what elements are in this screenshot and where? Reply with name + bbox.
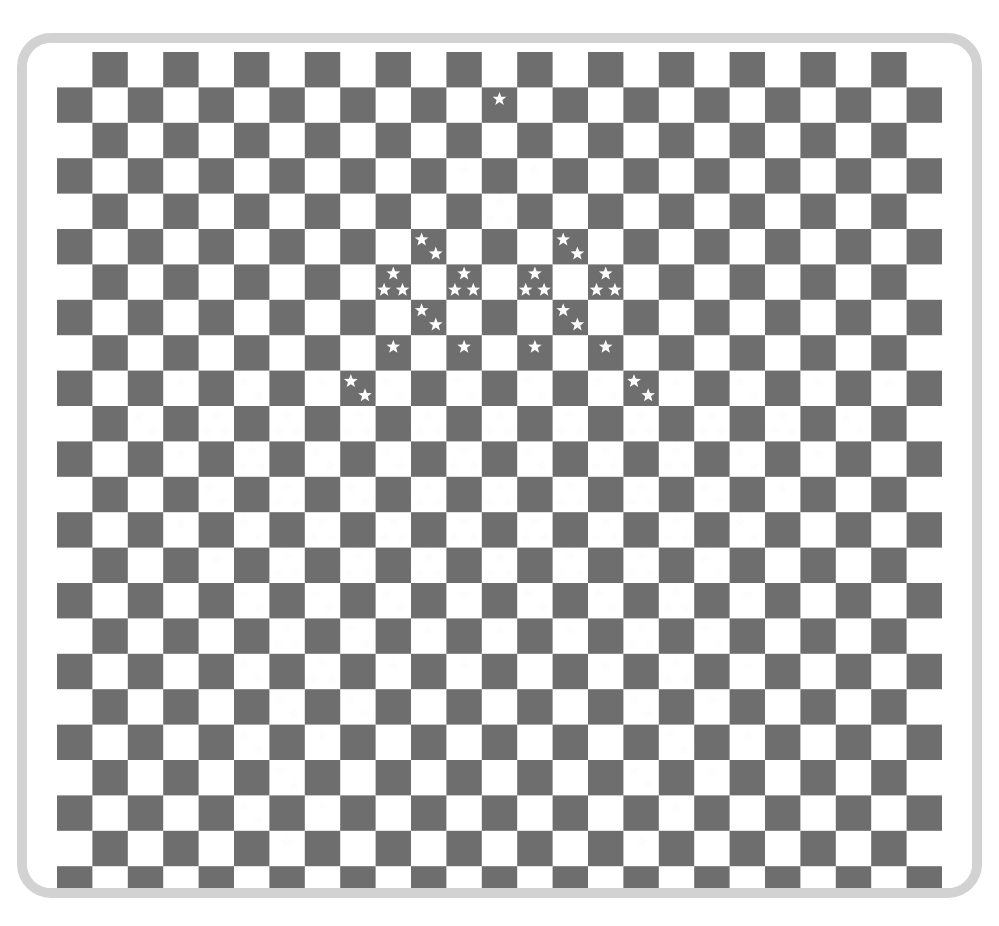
checker-square-dark xyxy=(340,654,375,689)
checker-square-dark xyxy=(199,158,234,193)
checker-square-dark xyxy=(730,760,765,795)
checker-square-dark xyxy=(836,300,871,335)
checker-square-dark xyxy=(907,229,942,264)
checker-square-dark xyxy=(269,87,304,122)
checker-square-dark xyxy=(305,406,340,441)
checker-square-dark xyxy=(553,583,588,618)
checker-square-dark xyxy=(588,264,623,299)
checker-square-dark xyxy=(163,477,198,512)
checker-square-dark xyxy=(234,760,269,795)
checker-square-dark xyxy=(269,158,304,193)
checker-square-dark xyxy=(800,406,835,441)
checker-square-dark xyxy=(340,441,375,476)
checker-square-dark xyxy=(163,760,198,795)
checker-square-dark xyxy=(871,618,906,653)
checker-square-dark xyxy=(199,441,234,476)
checker-square-dark xyxy=(659,831,694,866)
checker-square-dark xyxy=(376,477,411,512)
checker-square-dark xyxy=(340,87,375,122)
checker-square-dark xyxy=(92,406,127,441)
checker-square-dark xyxy=(517,406,552,441)
checker-square-dark xyxy=(269,795,304,830)
checker-square-dark xyxy=(234,689,269,724)
checker-square-dark xyxy=(730,831,765,866)
checker-square-dark xyxy=(57,866,92,888)
checker-square-dark xyxy=(269,512,304,547)
checker-square-dark xyxy=(92,52,127,87)
checker-square-dark xyxy=(269,300,304,335)
checker-square-dark xyxy=(553,371,588,406)
checker-square-dark xyxy=(340,725,375,760)
checker-square-dark xyxy=(553,654,588,689)
checker-square-dark xyxy=(340,371,375,406)
checker-square-dark xyxy=(305,194,340,229)
checker-square-dark xyxy=(269,441,304,476)
checker-square-dark xyxy=(199,371,234,406)
checker-square-dark xyxy=(871,194,906,229)
checker-square-dark xyxy=(730,52,765,87)
checker-square-dark xyxy=(659,123,694,158)
checker-square-dark xyxy=(836,441,871,476)
checker-square-dark xyxy=(836,87,871,122)
checker-square-dark xyxy=(199,512,234,547)
checker-square-dark xyxy=(588,194,623,229)
checker-square-dark xyxy=(694,866,729,888)
checker-square-dark xyxy=(305,123,340,158)
checker-square-dark xyxy=(57,158,92,193)
checker-square-dark xyxy=(482,512,517,547)
checker-square-dark xyxy=(694,87,729,122)
checker-square-dark xyxy=(517,335,552,370)
checker-square-dark xyxy=(128,512,163,547)
checker-square-dark xyxy=(376,52,411,87)
checker-square-dark xyxy=(92,618,127,653)
checker-square-dark xyxy=(730,406,765,441)
checker-square-dark xyxy=(623,654,658,689)
checker-square-dark xyxy=(446,264,481,299)
checker-square-dark xyxy=(765,87,800,122)
checker-square-dark xyxy=(800,548,835,583)
checker-square-dark xyxy=(57,87,92,122)
checker-square-dark xyxy=(659,406,694,441)
checker-square-dark xyxy=(128,441,163,476)
checker-square-dark xyxy=(482,300,517,335)
checker-square-dark xyxy=(128,795,163,830)
checker-square-dark xyxy=(588,689,623,724)
checker-square-dark xyxy=(517,548,552,583)
checker-square-dark xyxy=(623,866,658,888)
checker-square-dark xyxy=(836,371,871,406)
checker-square-dark xyxy=(907,158,942,193)
checker-square-dark xyxy=(234,52,269,87)
checker-square-dark xyxy=(57,795,92,830)
checker-square-dark xyxy=(163,406,198,441)
checker-square-dark xyxy=(623,725,658,760)
checker-square-dark xyxy=(411,300,446,335)
checker-square-dark xyxy=(128,583,163,618)
checker-square-dark xyxy=(730,123,765,158)
checker-square-dark xyxy=(694,512,729,547)
checker-square-dark xyxy=(92,264,127,299)
checker-square-dark xyxy=(553,300,588,335)
checker-square-dark xyxy=(128,725,163,760)
checker-square-dark xyxy=(92,689,127,724)
checker-square-dark xyxy=(730,689,765,724)
checker-square-dark xyxy=(411,654,446,689)
checker-square-dark xyxy=(305,689,340,724)
checker-square-dark xyxy=(800,335,835,370)
checker-square-dark xyxy=(907,87,942,122)
checker-square-dark xyxy=(199,300,234,335)
checker-square-dark xyxy=(836,512,871,547)
checker-square-dark xyxy=(411,866,446,888)
checker-square-dark xyxy=(623,371,658,406)
checker-square-dark xyxy=(305,831,340,866)
checker-square-dark xyxy=(730,194,765,229)
checker-square-dark xyxy=(305,264,340,299)
checker-square-dark xyxy=(128,654,163,689)
checker-square-dark xyxy=(269,866,304,888)
checker-square-dark xyxy=(411,229,446,264)
checker-square-dark xyxy=(871,406,906,441)
checker-square-dark xyxy=(340,866,375,888)
checker-square-dark xyxy=(57,725,92,760)
checker-square-dark xyxy=(694,371,729,406)
checkerboard-grid xyxy=(27,43,972,888)
checker-square-dark xyxy=(199,87,234,122)
